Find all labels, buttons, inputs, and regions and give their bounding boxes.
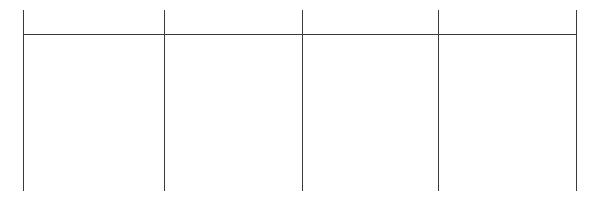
column-divider-line [23, 10, 24, 191]
column-divider-line [302, 10, 303, 191]
column-divider-line [576, 10, 577, 191]
column-divider-line [438, 10, 439, 191]
header-separator-line [23, 34, 577, 35]
column-divider-line [164, 10, 165, 191]
